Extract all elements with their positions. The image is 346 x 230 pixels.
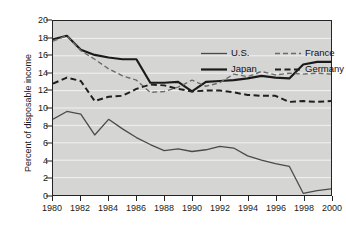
legend-entry-japan: Japan xyxy=(201,64,275,74)
plot-area: U.S.FranceJapanGermany xyxy=(52,20,332,196)
legend-swatch-u-s xyxy=(201,49,227,58)
x-axis-tick-labels: 1980198219841986198819901992199419961998… xyxy=(52,203,332,217)
x-tickmark-1988 xyxy=(164,196,165,201)
legend-label-japan: Japan xyxy=(231,64,257,74)
y-tick-20: 20 xyxy=(24,15,48,25)
x-tickmark-1986 xyxy=(136,196,137,201)
x-tick-1992: 1992 xyxy=(210,203,230,213)
x-axis-tick-marks xyxy=(52,196,332,202)
x-tickmark-1982 xyxy=(80,196,81,201)
x-tick-1982: 1982 xyxy=(70,203,90,213)
y-tick-6: 6 xyxy=(24,138,48,148)
legend-swatch-france xyxy=(275,49,301,58)
series-line-u-s xyxy=(53,111,331,193)
y-tick-18: 18 xyxy=(24,33,48,43)
y-tick-16: 16 xyxy=(24,50,48,60)
y-tick-14: 14 xyxy=(24,68,48,78)
y-tick-4: 4 xyxy=(24,156,48,166)
y-tick-8: 8 xyxy=(24,121,48,131)
x-tick-1986: 1986 xyxy=(126,203,146,213)
x-tickmark-1990 xyxy=(192,196,193,201)
x-tick-1996: 1996 xyxy=(266,203,286,213)
y-tick-2: 2 xyxy=(24,173,48,183)
y-axis-tick-labels: 02468101214161820 xyxy=(24,20,48,196)
x-tick-1980: 1980 xyxy=(42,203,62,213)
legend-label-u-s: U.S. xyxy=(231,48,249,58)
legend-entry-u-s: U.S. xyxy=(201,48,275,58)
chart-legend: U.S.FranceJapanGermany xyxy=(201,45,346,77)
legend-swatch-germany xyxy=(275,65,301,74)
y-tick-10: 10 xyxy=(24,103,48,113)
legend-entry-france: France xyxy=(275,48,346,58)
x-tickmark-1996 xyxy=(276,196,277,201)
x-tick-2000: 2000 xyxy=(322,203,342,213)
series-line-germany xyxy=(53,78,331,102)
x-tick-1998: 1998 xyxy=(294,203,314,213)
legend-label-germany: Germany xyxy=(305,64,344,74)
x-tickmark-1992 xyxy=(220,196,221,201)
legend-swatch-japan xyxy=(201,65,227,74)
legend-entry-germany: Germany xyxy=(275,64,346,74)
x-tickmark-2000 xyxy=(332,196,333,201)
x-tickmark-1984 xyxy=(108,196,109,201)
savings-rate-line-chart: Percent of disposable income 02468101214… xyxy=(0,0,346,230)
x-tickmark-1994 xyxy=(248,196,249,201)
x-tickmark-1998 xyxy=(304,196,305,201)
y-tick-12: 12 xyxy=(24,85,48,95)
x-tick-1994: 1994 xyxy=(238,203,258,213)
x-tick-1988: 1988 xyxy=(154,203,174,213)
y-tick-0: 0 xyxy=(24,191,48,201)
legend-label-france: France xyxy=(305,48,335,58)
x-tick-1990: 1990 xyxy=(182,203,202,213)
x-tickmark-1980 xyxy=(52,196,53,201)
x-tick-1984: 1984 xyxy=(98,203,118,213)
